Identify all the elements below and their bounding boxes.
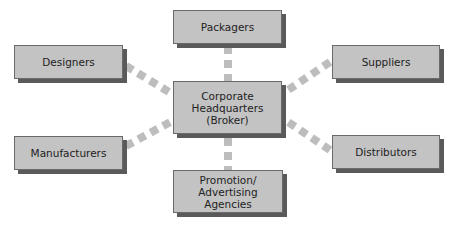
node-packagers: Packagers [173, 10, 282, 44]
network-organization-diagram: Packagers Designers Suppliers Corporate … [0, 0, 461, 234]
node-corporate-headquarters: Corporate Headquarters (Broker) [173, 81, 282, 134]
node-promotion-advertising-agencies: Promotion/ Advertising Agencies [173, 170, 283, 213]
node-designers: Designers [14, 45, 123, 79]
node-distributors: Distributors [332, 135, 440, 169]
connector-designers [126, 66, 174, 95]
node-manufacturers: Manufacturers [14, 136, 123, 170]
connector-suppliers [285, 62, 330, 92]
connector-manufacturers [126, 120, 174, 146]
connector-distributors [285, 120, 330, 150]
node-suppliers: Suppliers [332, 45, 440, 79]
